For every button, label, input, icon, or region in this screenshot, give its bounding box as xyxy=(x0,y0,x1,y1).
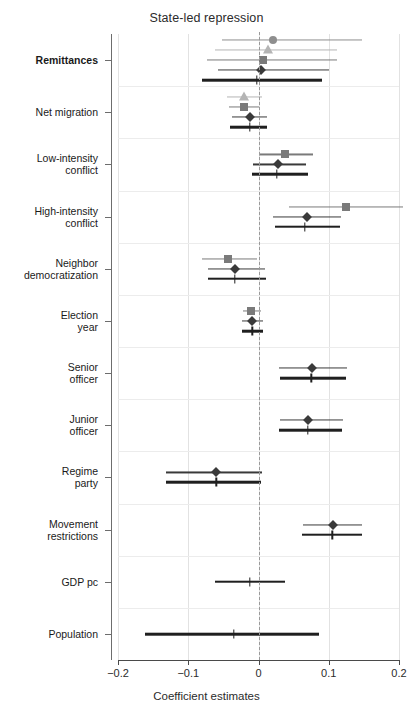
confidence-interval xyxy=(207,60,337,61)
y-axis-tick xyxy=(105,530,111,531)
y-axis-tick xyxy=(105,217,111,218)
confidence-interval xyxy=(145,633,319,636)
point-marker-triangle xyxy=(263,45,273,54)
chart-title: State-led repression xyxy=(0,11,413,25)
point-marker-square xyxy=(240,103,248,111)
y-axis-label: Remittances xyxy=(36,54,98,66)
confidence-interval xyxy=(275,225,340,228)
x-axis-tick xyxy=(259,660,260,665)
y-axis-label: Election year xyxy=(61,309,98,333)
confidence-interval xyxy=(280,377,345,380)
point-marker-tick xyxy=(251,326,252,335)
y-axis-label: Junior officer xyxy=(69,413,98,437)
y-axis-label: Neighbor democratization xyxy=(24,257,98,281)
y-axis-tick xyxy=(105,112,111,113)
y-axis-labels: RemittancesNet migrationLow-intensity co… xyxy=(0,34,112,660)
y-axis-label: Senior officer xyxy=(68,361,98,385)
zero-reference-line xyxy=(259,32,260,660)
point-marker-tick xyxy=(234,274,235,283)
y-axis-label: High-intensity conflict xyxy=(34,205,98,229)
point-marker-tick xyxy=(276,170,277,179)
x-axis-tick xyxy=(329,660,330,665)
confidence-interval xyxy=(208,277,266,280)
confidence-interval xyxy=(252,173,307,176)
coefficient-plot-figure: State-led repression RemittancesNet migr… xyxy=(0,0,413,727)
y-axis-label: GDP pc xyxy=(61,576,98,588)
y-axis-tick xyxy=(105,321,111,322)
point-marker-diamond xyxy=(230,264,240,274)
y-axis-label: Movement restrictions xyxy=(47,518,98,542)
y-axis-tick xyxy=(105,164,111,165)
point-marker-square xyxy=(247,307,255,315)
point-marker-diamond xyxy=(256,65,266,75)
y-axis-spine xyxy=(111,34,112,660)
x-axis-tick-label: 0 xyxy=(255,667,261,679)
point-marker-diamond xyxy=(302,212,312,222)
point-marker-tick xyxy=(310,374,311,383)
confidence-interval xyxy=(279,429,342,432)
y-axis-tick xyxy=(105,60,111,61)
plot-area xyxy=(118,34,399,660)
x-axis-tick xyxy=(118,660,119,665)
y-axis-tick xyxy=(105,582,111,583)
x-axis-tick xyxy=(188,660,189,665)
y-axis-label: Net migration xyxy=(36,106,98,118)
vertical-gridline xyxy=(399,34,400,660)
point-marker-diamond xyxy=(245,112,255,122)
y-axis-tick xyxy=(105,425,111,426)
y-axis-label: Regime party xyxy=(62,465,98,489)
x-axis-tick-label: −0.2 xyxy=(107,667,129,679)
y-axis-tick xyxy=(105,477,111,478)
y-axis-label: Low-intensity conflict xyxy=(37,152,98,176)
x-axis-tick-label: 0.2 xyxy=(391,667,406,679)
point-marker-diamond xyxy=(273,159,283,169)
point-marker-triangle xyxy=(239,92,249,101)
point-marker-tick xyxy=(249,577,250,586)
point-marker-tick xyxy=(233,629,234,638)
point-marker-tick xyxy=(304,222,305,231)
y-axis-tick xyxy=(105,269,111,270)
point-marker-square xyxy=(259,56,267,64)
point-marker-tick xyxy=(307,426,308,435)
point-marker-circle xyxy=(269,36,277,44)
point-marker-tick xyxy=(249,123,250,132)
point-marker-diamond xyxy=(307,363,317,373)
point-marker-square xyxy=(224,255,232,263)
point-marker-square xyxy=(281,150,289,158)
x-axis-tick xyxy=(399,660,400,665)
x-axis-tick-label: 0.1 xyxy=(321,667,336,679)
confidence-interval xyxy=(215,50,337,51)
confidence-interval xyxy=(166,481,262,484)
confidence-interval xyxy=(202,79,322,82)
point-marker-tick xyxy=(332,530,333,539)
point-marker-tick xyxy=(216,478,217,487)
confidence-interval xyxy=(222,40,363,41)
y-axis-tick xyxy=(105,373,111,374)
point-marker-square xyxy=(342,203,350,211)
y-axis-label: Population xyxy=(48,628,98,640)
x-axis-title: Coefficient estimates xyxy=(0,690,413,702)
point-marker-diamond xyxy=(247,316,257,326)
y-axis-tick xyxy=(105,634,111,635)
point-marker-diamond xyxy=(303,415,313,425)
confidence-interval xyxy=(218,70,329,71)
point-marker-diamond xyxy=(211,467,221,477)
x-axis-tick-label: −0.1 xyxy=(177,667,199,679)
